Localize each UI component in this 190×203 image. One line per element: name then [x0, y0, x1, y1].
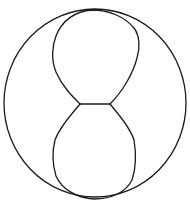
bottom-lobe [53, 104, 135, 199]
outer-circle [4, 9, 186, 197]
top-lobe [53, 10, 139, 104]
diagram-canvas [0, 0, 190, 203]
figure-eight-in-circle-diagram [0, 0, 190, 203]
